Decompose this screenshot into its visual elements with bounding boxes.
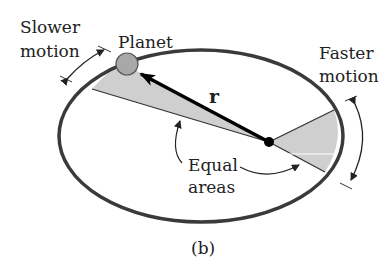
fast-sector-area [269, 110, 338, 172]
slower-label-line2: motion [20, 41, 80, 61]
slow-sector-area [92, 64, 269, 142]
equal-label-line1: Equal [188, 155, 238, 175]
planet-circle-icon [116, 53, 138, 75]
pointer-arrow-slow-icon [175, 121, 182, 163]
figure-caption: (b) [191, 238, 215, 258]
slower-label-line1: Slower [20, 17, 81, 37]
sun-dot-icon [264, 137, 274, 147]
faster-label-line1: Faster [319, 43, 374, 63]
equal-label-line2: areas [188, 177, 235, 197]
planet-label: Planet [118, 32, 173, 52]
kepler-second-law-diagram: Slower motion Planet r Faster motion Equ… [0, 0, 391, 277]
pointer-arrow-fast-icon [240, 165, 299, 174]
radius-label: r [209, 85, 220, 107]
faster-label-line2: motion [319, 66, 379, 86]
